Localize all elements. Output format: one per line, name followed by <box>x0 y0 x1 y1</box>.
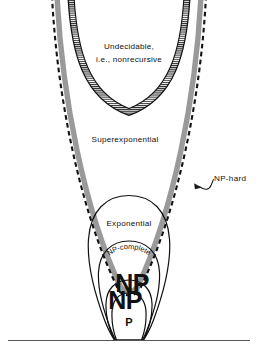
label-p: P <box>125 316 132 328</box>
label-undecidable-line1: Undecidable, <box>104 42 154 51</box>
np-hard-leader-path <box>199 179 214 189</box>
np-hard-leader-arrowhead <box>195 184 201 189</box>
label-np-hard: NP-hard <box>214 174 246 183</box>
label-superexponential: Superexponential <box>92 135 159 144</box>
complexity-diagram-canvas: Undecidable, i.e., nonrecursive Superexp… <box>0 0 258 359</box>
np-hard-leader-line <box>195 179 214 189</box>
label-np: NP <box>108 286 142 314</box>
label-np-complete: NP-complete <box>105 242 153 257</box>
label-np-complete-textpath: NP-complete <box>105 242 153 257</box>
label-exponential: Exponential <box>106 219 151 228</box>
complexity-diagram-figure: Undecidable, i.e., nonrecursive Superexp… <box>0 0 258 359</box>
label-undecidable-line2: i.e., nonrecursive <box>96 55 162 64</box>
